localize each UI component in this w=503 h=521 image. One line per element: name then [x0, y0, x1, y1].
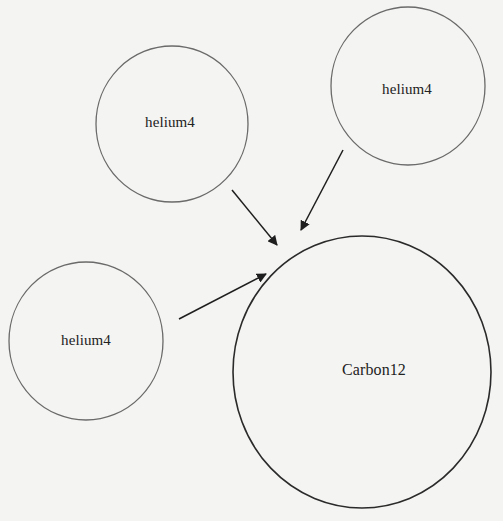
label-carbon12: Carbon12	[342, 361, 406, 379]
arrow-helium4-bottom-left-to-carbon12	[179, 274, 266, 319]
arrow-helium4-top-right-to-carbon12	[301, 150, 343, 230]
diagram-canvas: helium4 helium4 helium4 Carbon12	[0, 0, 503, 521]
label-helium4-bottom-left: helium4	[61, 332, 111, 349]
diagram-svg	[0, 0, 503, 521]
label-helium4-top-left: helium4	[145, 114, 195, 131]
arrow-helium4-top-left-to-carbon12	[232, 190, 277, 245]
label-helium4-top-right: helium4	[382, 81, 432, 98]
